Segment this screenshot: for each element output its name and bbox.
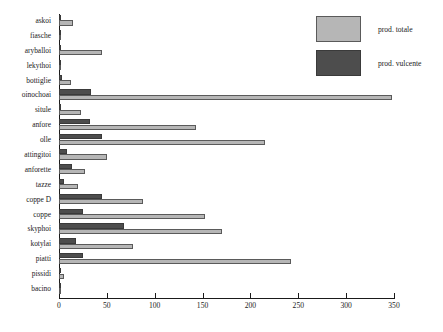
y-axis-label: oinochoai bbox=[0, 88, 55, 103]
bar-prod-totale bbox=[59, 35, 61, 40]
bar-row bbox=[59, 88, 394, 103]
bar-prod-totale bbox=[59, 169, 85, 174]
y-axis-label: askoi bbox=[0, 14, 55, 29]
y-axis-label: kotylai bbox=[0, 237, 55, 252]
y-axis-label: anfore bbox=[0, 118, 55, 133]
bar-prod-totale bbox=[59, 214, 205, 219]
bar-prod-totale bbox=[59, 50, 102, 55]
bar-prod-totale bbox=[59, 154, 107, 159]
y-axis-label: bottiglie bbox=[0, 74, 55, 89]
legend-swatch-prod-vulcente bbox=[316, 50, 361, 76]
x-axis-tick-label: 250 bbox=[293, 301, 304, 310]
x-axis-tick-mark bbox=[394, 293, 395, 299]
bar-prod-totale bbox=[59, 184, 78, 189]
legend-label-prod-totale: prod. totale bbox=[378, 25, 413, 34]
y-axis-label: bacino bbox=[0, 282, 55, 297]
x-axis-tick-marks bbox=[59, 293, 399, 299]
bar-prod-totale bbox=[59, 140, 265, 145]
y-axis-label: fiasche bbox=[0, 29, 55, 44]
y-axis-category-labels: askoifiaschearyballoilekythoibottiglieoi… bbox=[0, 14, 55, 297]
chart-legend: prod. totale prod. vulcente bbox=[316, 16, 440, 82]
y-axis-label: anforette bbox=[0, 163, 55, 178]
x-axis-tick-mark bbox=[298, 293, 299, 299]
bar-prod-totale bbox=[59, 199, 143, 204]
x-axis-tick-mark bbox=[155, 293, 156, 299]
y-axis-label: coppe D bbox=[0, 193, 55, 208]
bar-prod-totale bbox=[59, 259, 291, 264]
bar-row bbox=[59, 208, 394, 223]
bar-prod-totale bbox=[59, 274, 64, 279]
bar-row bbox=[59, 267, 394, 282]
bar-prod-totale bbox=[59, 20, 73, 25]
bar-prod-totale bbox=[59, 95, 392, 100]
y-axis-label: olle bbox=[0, 133, 55, 148]
bar-prod-totale bbox=[59, 80, 71, 85]
x-axis-tick-mark bbox=[250, 293, 251, 299]
bar-row bbox=[59, 178, 394, 193]
y-axis-label: lekythoi bbox=[0, 59, 55, 74]
bar-prod-totale bbox=[59, 229, 222, 234]
x-axis-tick-label: 150 bbox=[197, 301, 208, 310]
x-axis-tick-label: 50 bbox=[103, 301, 111, 310]
x-axis-tick-label: 100 bbox=[149, 301, 160, 310]
y-axis-label: coppe bbox=[0, 208, 55, 223]
x-axis-tick-mark bbox=[107, 293, 108, 299]
x-axis-tick-mark bbox=[203, 293, 204, 299]
bar-row bbox=[59, 118, 394, 133]
legend-swatch-prod-totale bbox=[316, 16, 361, 42]
bar-row bbox=[59, 103, 394, 118]
bar-prod-totale bbox=[59, 244, 133, 249]
x-axis-tick-label: 300 bbox=[340, 301, 351, 310]
bar-chart: askoifiaschearyballoilekythoibottiglieoi… bbox=[0, 0, 443, 332]
bar-row bbox=[59, 252, 394, 267]
bar-row bbox=[59, 193, 394, 208]
x-axis-tick-mark bbox=[346, 293, 347, 299]
x-axis-tick-label: 0 bbox=[57, 301, 61, 310]
legend-label-prod-vulcente: prod. vulcente bbox=[378, 59, 421, 68]
y-axis-label: aryballoi bbox=[0, 44, 55, 59]
bar-prod-totale bbox=[59, 110, 81, 115]
bar-row bbox=[59, 148, 394, 163]
y-axis-label: attingitoi bbox=[0, 148, 55, 163]
legend-item-prod-vulcente: prod. vulcente bbox=[316, 50, 440, 76]
x-axis-tick-label: 200 bbox=[245, 301, 256, 310]
y-axis-label: skyphoi bbox=[0, 222, 55, 237]
y-axis-label: pissidi bbox=[0, 267, 55, 282]
bar-row bbox=[59, 222, 394, 237]
bar-row bbox=[59, 237, 394, 252]
x-axis-tick-labels: 050100150200250300350 bbox=[0, 301, 443, 315]
bar-row bbox=[59, 133, 394, 148]
y-axis-label: situle bbox=[0, 103, 55, 118]
y-axis-label: piatti bbox=[0, 252, 55, 267]
bar-prod-totale bbox=[59, 65, 61, 70]
y-axis-label: tazze bbox=[0, 178, 55, 193]
bar-prod-totale bbox=[59, 125, 196, 130]
legend-item-prod-totale: prod. totale bbox=[316, 16, 440, 42]
x-axis-tick-label: 350 bbox=[388, 301, 399, 310]
bar-row bbox=[59, 163, 394, 178]
